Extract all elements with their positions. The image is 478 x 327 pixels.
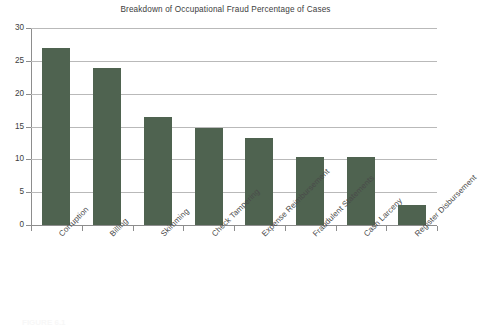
bar: [144, 117, 172, 225]
x-tick: [31, 226, 32, 231]
plot-area: [31, 28, 437, 225]
chart-title: Breakdown of Occupational Fraud Percenta…: [0, 5, 451, 14]
bar: [195, 128, 223, 225]
x-tick: [133, 226, 134, 231]
y-axis-tick-label: 20: [2, 90, 24, 98]
gridline-15: [31, 127, 437, 128]
x-tick: [183, 226, 184, 231]
figure-caption: FIGURE 6.1: [22, 318, 66, 327]
y-axis-tick-label: 25: [2, 57, 24, 65]
y-tick-5: [26, 192, 31, 193]
y-axis-tick-label: 30: [2, 24, 24, 32]
x-tick: [285, 226, 286, 231]
y-tick-10: [26, 159, 31, 160]
gridline-25: [31, 61, 437, 62]
bar: [42, 48, 70, 225]
bar: [245, 138, 273, 225]
x-tick: [82, 226, 83, 231]
y-axis-tick-label: 15: [2, 123, 24, 131]
x-tick: [386, 226, 387, 231]
gridline-20: [31, 94, 437, 95]
y-tick-25: [26, 61, 31, 62]
y-axis-tick-label: 10: [2, 155, 24, 163]
y-tick-30: [26, 28, 31, 29]
y-axis-labels: 051015202530: [0, 0, 24, 327]
gridline-5: [31, 192, 437, 193]
gridline-10: [31, 159, 437, 160]
y-axis-tick-label: 5: [2, 188, 24, 196]
x-tick: [437, 226, 438, 231]
x-tick: [336, 226, 337, 231]
x-tick: [234, 226, 235, 231]
bar: [93, 68, 121, 225]
y-axis-tick-label: 0: [2, 221, 24, 229]
gridline-30: [31, 28, 437, 29]
y-tick-20: [26, 94, 31, 95]
y-tick-15: [26, 127, 31, 128]
